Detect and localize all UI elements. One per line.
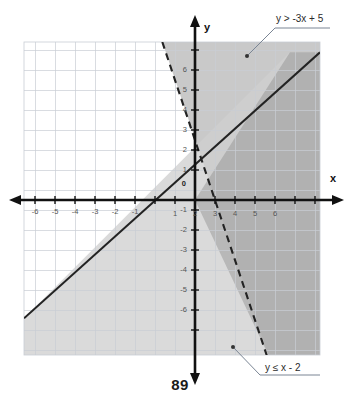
x-tick-label: -1 bbox=[132, 207, 139, 216]
x-tick-label: -3 bbox=[92, 207, 99, 216]
y-tick-label: 4 bbox=[183, 105, 187, 114]
x-tick-label: 3 bbox=[213, 209, 217, 218]
x-tick-label: 2 bbox=[193, 209, 197, 218]
inequality-graph-svg: -6 -5 -4 -3 -2 -1 1 2 3 4 5 6 6 5 4 3 2 … bbox=[0, 0, 360, 408]
x-axis-arrow-right bbox=[332, 195, 344, 205]
y-tick-label: -4 bbox=[180, 265, 187, 274]
y-tick-label: 2 bbox=[183, 145, 187, 154]
y-tick-label: -1 bbox=[180, 205, 187, 214]
y-tick-label: -2 bbox=[180, 225, 187, 234]
x-axis-arrow-left bbox=[9, 195, 21, 205]
y-tick-label: -3 bbox=[180, 245, 187, 254]
callout-upper-label: y > -3x + 5 bbox=[276, 13, 324, 24]
callout-lower-label: y ≤ x - 2 bbox=[265, 362, 301, 373]
y-tick-label: -5 bbox=[180, 285, 187, 294]
y-tick-label: 1 bbox=[183, 165, 187, 174]
graph-figure: -6 -5 -4 -3 -2 -1 1 2 3 4 5 6 6 5 4 3 2 … bbox=[0, 0, 360, 408]
origin-label: 0 bbox=[182, 179, 186, 188]
x-axis-label: x bbox=[330, 172, 337, 184]
callout-lower-dot bbox=[231, 345, 235, 349]
y-tick-label: 6 bbox=[183, 65, 187, 74]
x-tick-label: 1 bbox=[173, 209, 177, 218]
x-tick-label: 5 bbox=[253, 209, 257, 218]
x-tick-label: -6 bbox=[32, 207, 39, 216]
y-tick-label: 3 bbox=[183, 125, 187, 134]
x-tick-label: -5 bbox=[52, 207, 59, 216]
x-tick-label: 4 bbox=[233, 209, 237, 218]
x-tick-label: 6 bbox=[273, 209, 277, 218]
callout-upper-dot bbox=[245, 54, 249, 58]
x-tick-label: -4 bbox=[72, 207, 79, 216]
y-tick-label: 5 bbox=[183, 85, 187, 94]
x-tick-label: -2 bbox=[112, 207, 119, 216]
y-axis-arrow-up bbox=[190, 15, 200, 27]
y-axis-label: y bbox=[204, 21, 211, 33]
y-tick-label: -6 bbox=[180, 305, 187, 314]
page-number: 89 bbox=[0, 376, 360, 393]
